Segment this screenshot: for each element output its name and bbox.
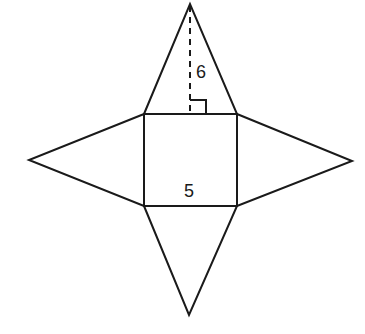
triangle-bottom xyxy=(144,206,237,315)
triangle-right xyxy=(237,114,352,206)
triangle-left xyxy=(29,114,144,206)
right-angle-marker xyxy=(190,100,206,114)
pyramid-net-diagram: 6 5 xyxy=(0,0,365,334)
base-side-label: 5 xyxy=(184,181,194,201)
height-label: 6 xyxy=(196,62,206,82)
